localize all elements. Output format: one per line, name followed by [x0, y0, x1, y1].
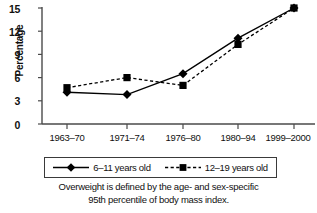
- x-tick-label-1999-2000: 1999–2000: [266, 132, 311, 143]
- legend-label-6-11: 6–11 years old: [93, 162, 150, 173]
- legend-entry-6-11: 6–11 years old: [53, 162, 150, 173]
- chart-legend: 6–11 years old 12–19 years old: [44, 157, 277, 178]
- chart-figure: Percentage 15 12 9 6 3 0: [0, 0, 317, 213]
- legend-swatch-dashed-square: [165, 162, 201, 173]
- plot-area: Percentage 15 12 9 6 3 0: [0, 0, 317, 150]
- x-tick-label-1971-74: 1971–74: [110, 132, 145, 143]
- legend-label-12-19: 12–19 years old: [205, 162, 268, 173]
- caption-line-1: Overweight is defined by the age- and se…: [0, 181, 317, 194]
- figure-caption: Overweight is defined by the age- and se…: [0, 181, 317, 206]
- series-markers-12-19: [63, 4, 297, 91]
- chart-canvas: [0, 0, 317, 150]
- series-line-12-19: [67, 8, 294, 88]
- x-tick-label-1963-70: 1963–70: [50, 132, 85, 143]
- legend-swatch-solid-diamond: [53, 162, 89, 173]
- x-tick-label-1980-94: 1980–94: [221, 132, 256, 143]
- x-tick-label-1976-80: 1976–80: [166, 132, 201, 143]
- x-tick-marks: [67, 124, 294, 129]
- legend-entry-12-19: 12–19 years old: [165, 162, 268, 173]
- caption-line-2: 95th percentile of body mass index.: [0, 194, 317, 207]
